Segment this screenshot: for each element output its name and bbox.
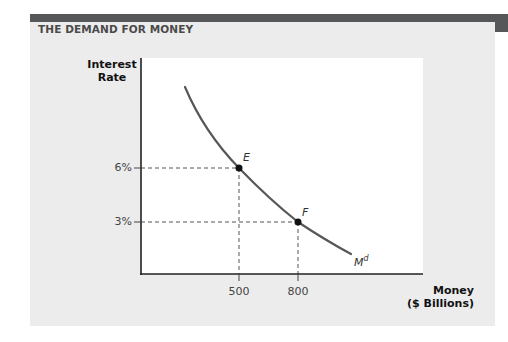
point-e-marker [236, 165, 243, 172]
x-tick-label-500: 500 [219, 285, 259, 298]
point-e-label: E [243, 151, 250, 164]
curve-label: Md [354, 254, 369, 269]
y-tick-label-6: 6% [92, 161, 132, 174]
curve-label-main: M [354, 256, 364, 269]
guide-lines [141, 168, 298, 274]
point-f-label: F [302, 206, 308, 219]
x-axis-label: Money ($ Billions) [394, 284, 474, 310]
x-tick-label-800: 800 [278, 285, 318, 298]
x-axis-label-line2: ($ Billions) [394, 297, 474, 310]
money-demand-curve [185, 87, 351, 254]
point-f-marker [295, 219, 302, 226]
x-axis-label-line1: Money [394, 284, 474, 297]
y-tick-label-3: 3% [92, 215, 132, 228]
curve-label-superscript: d [364, 254, 369, 263]
